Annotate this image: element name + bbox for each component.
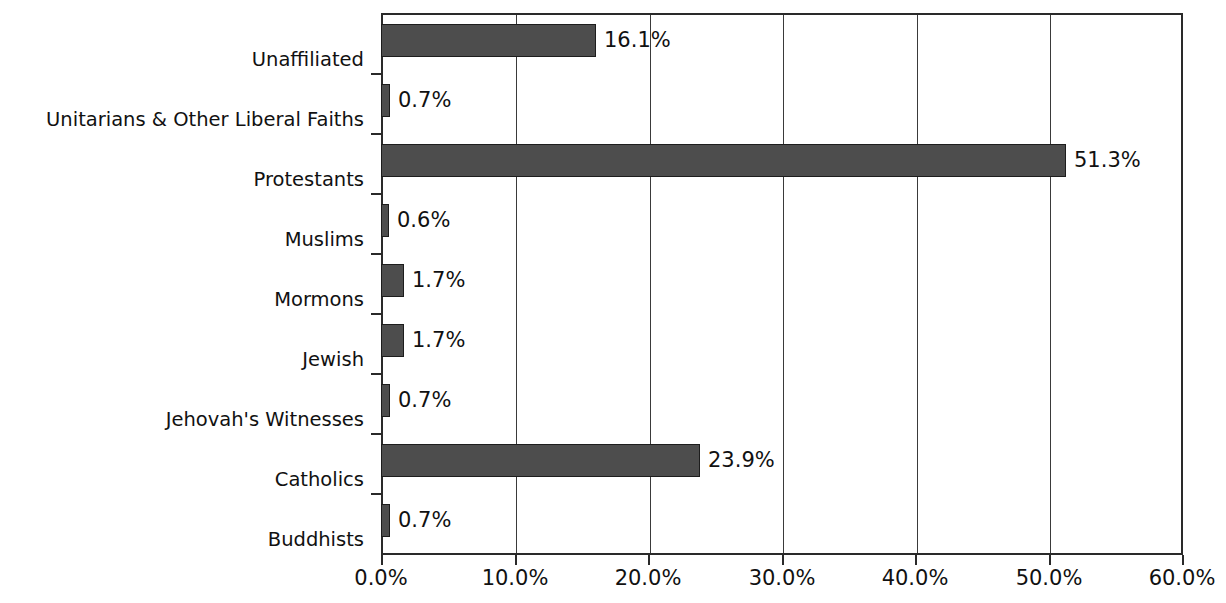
bar-protestants[interactable]: [381, 144, 1066, 177]
x-axis-label-30: 30.0%: [749, 568, 816, 589]
bar-value-jehovahs-witnesses: 0.7%: [398, 390, 451, 411]
bar-unitarians[interactable]: [381, 84, 390, 117]
bar-value-muslims: 0.6%: [397, 210, 450, 231]
y-axis-label-jehovahs-witnesses: Jehovah's Witnesses: [166, 410, 364, 430]
bar-value-unaffiliated: 16.1%: [604, 30, 671, 51]
bar-value-unitarians: 0.7%: [398, 90, 451, 111]
x-axis-tick: [648, 555, 650, 565]
y-axis-label-buddhists: Buddhists: [268, 530, 364, 550]
bar-value-catholics: 23.9%: [708, 450, 775, 471]
x-axis-tick: [915, 555, 917, 565]
bar-value-jewish: 1.7%: [412, 330, 465, 351]
x-axis-label-50: 50.0%: [1016, 568, 1083, 589]
bar-buddhists[interactable]: [381, 504, 390, 537]
bar-muslims[interactable]: [381, 204, 389, 237]
bars-layer: 16.1% 0.7% 51.3% 0.6% 1.7% 1.7% 0.7% 23.…: [381, 0, 1226, 603]
bar-mormons[interactable]: [381, 264, 404, 297]
x-axis-tick: [381, 555, 383, 565]
x-axis-tick: [782, 555, 784, 565]
y-axis-label-muslims: Muslims: [285, 230, 364, 250]
bar-catholics[interactable]: [381, 444, 700, 477]
x-axis-label-10: 10.0%: [482, 568, 549, 589]
bar-value-protestants: 51.3%: [1074, 150, 1141, 171]
y-axis-label-jewish: Jewish: [302, 350, 364, 370]
y-axis-label-protestants: Protestants: [254, 170, 365, 190]
bar-chart: Unaffiliated Unitarians & Other Liberal …: [0, 0, 1226, 603]
y-axis-label-unaffiliated: Unaffiliated: [252, 50, 364, 70]
bar-jewish[interactable]: [381, 324, 404, 357]
y-axis-labels: Unaffiliated Unitarians & Other Liberal …: [0, 0, 374, 603]
bar-value-buddhists: 0.7%: [398, 510, 451, 531]
x-axis-tick: [1049, 555, 1051, 565]
bar-value-mormons: 1.7%: [412, 270, 465, 291]
bar-jehovahs-witnesses[interactable]: [381, 384, 390, 417]
y-axis-label-mormons: Mormons: [274, 290, 364, 310]
bar-unaffiliated[interactable]: [381, 24, 596, 57]
x-axis-label-20: 20.0%: [615, 568, 682, 589]
x-axis-label-60: 60.0%: [1149, 568, 1216, 589]
x-axis-tick: [515, 555, 517, 565]
y-axis-label-unitarians: Unitarians & Other Liberal Faiths: [46, 110, 364, 130]
x-axis-label-0: 0.0%: [354, 568, 407, 589]
x-axis-tick: [1182, 555, 1184, 565]
x-axis-label-40: 40.0%: [882, 568, 949, 589]
y-axis-label-catholics: Catholics: [275, 470, 364, 490]
